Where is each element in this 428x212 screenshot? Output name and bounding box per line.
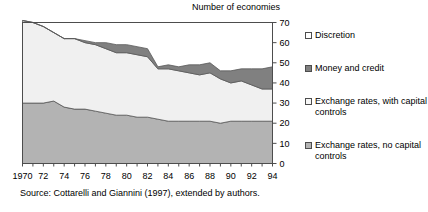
- x-tick-label: 86: [184, 171, 194, 181]
- chart-figure: Number of economies 010203040506070 1970…: [0, 0, 428, 212]
- legend-item-money-and-credit: Money and credit: [305, 63, 428, 74]
- x-tick-label: 1970: [12, 171, 32, 181]
- legend-label: Exchange rates, with capital controls: [315, 96, 428, 118]
- y-tick-label: 0: [280, 159, 285, 169]
- legend-swatch-icon: [305, 98, 312, 105]
- y-tick-label: 60: [280, 38, 290, 48]
- x-tick-label: 92: [247, 171, 257, 181]
- y-tick-label: 70: [280, 18, 290, 28]
- x-tick-label: 72: [38, 171, 48, 181]
- x-tick-label: 76: [80, 171, 90, 181]
- y-tick-label: 30: [280, 98, 290, 108]
- x-tick-label: 82: [142, 171, 152, 181]
- legend-item-exchange-rates-no-controls: Exchange rates, no capital controls: [305, 140, 428, 162]
- legend-item-discretion: Discretion: [305, 30, 428, 41]
- y-tick-label: 40: [280, 78, 290, 88]
- legend-label: Discretion: [315, 30, 355, 41]
- x-tick-label: 84: [163, 171, 173, 181]
- y-tick-label: 20: [280, 118, 290, 128]
- legend-swatch-icon: [305, 142, 312, 149]
- x-tick-label: 74: [59, 171, 69, 181]
- x-axis: 1970727476788082848688909294: [12, 164, 277, 181]
- x-tick-label: 78: [101, 171, 111, 181]
- x-tick-label: 80: [122, 171, 132, 181]
- x-tick-label: 88: [205, 171, 215, 181]
- legend-label: Exchange rates, no capital controls: [315, 140, 428, 162]
- legend-label: Money and credit: [315, 63, 384, 74]
- x-tick-label: 90: [226, 171, 236, 181]
- y-tick-label: 50: [280, 58, 290, 68]
- legend-item-exchange-rates-with-controls: Exchange rates, with capital controls: [305, 96, 428, 118]
- legend-swatch-icon: [305, 65, 312, 72]
- y-tick-label: 10: [280, 139, 290, 149]
- x-tick-label: 94: [267, 171, 277, 181]
- stacked-areas: [23, 20, 273, 163]
- legend-swatch-icon: [305, 32, 312, 39]
- source-note: Source: Cottarelli and Giannini (1997), …: [20, 188, 260, 198]
- y-axis: 010203040506070: [273, 18, 290, 169]
- chart-legend: Discretion Money and credit Exchange rat…: [305, 30, 428, 171]
